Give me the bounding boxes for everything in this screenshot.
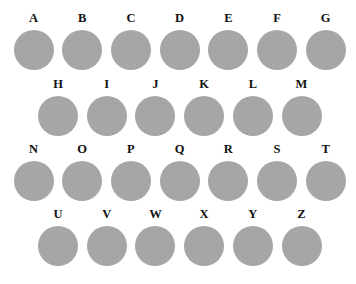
circle-c[interactable] xyxy=(111,30,151,70)
circle-s[interactable] xyxy=(257,161,297,201)
letter-label-d: D xyxy=(160,11,200,25)
letter-label-m: M xyxy=(282,77,322,91)
letter-label-g: G xyxy=(306,11,346,25)
letter-label-v: V xyxy=(87,207,127,221)
letter-label-p: P xyxy=(111,142,151,156)
circle-p[interactable] xyxy=(111,161,151,201)
circle-v[interactable] xyxy=(87,226,127,266)
letter-label-c: C xyxy=(111,11,151,25)
letter-label-t: T xyxy=(306,142,346,156)
circle-r[interactable] xyxy=(208,161,248,201)
letter-label-z: Z xyxy=(282,207,322,221)
circle-b[interactable] xyxy=(62,30,102,70)
letter-label-o: O xyxy=(62,142,102,156)
circle-l[interactable] xyxy=(233,96,273,136)
letter-label-i: I xyxy=(87,77,127,91)
circle-h[interactable] xyxy=(38,96,78,136)
circle-j[interactable] xyxy=(135,96,175,136)
letter-label-e: E xyxy=(208,11,248,25)
circle-q[interactable] xyxy=(160,161,200,201)
circle-k[interactable] xyxy=(184,96,224,136)
letter-label-b: B xyxy=(62,11,102,25)
letter-label-f: F xyxy=(257,11,297,25)
letter-label-x: X xyxy=(184,207,224,221)
letter-label-a: A xyxy=(14,11,54,25)
circle-g[interactable] xyxy=(306,30,346,70)
circle-y[interactable] xyxy=(233,226,273,266)
letter-label-u: U xyxy=(38,207,78,221)
letter-label-l: L xyxy=(233,77,273,91)
circle-w[interactable] xyxy=(135,226,175,266)
circle-m[interactable] xyxy=(282,96,322,136)
circle-z[interactable] xyxy=(282,226,322,266)
letter-label-q: Q xyxy=(160,142,200,156)
letter-label-n: N xyxy=(14,142,54,156)
letter-label-w: W xyxy=(135,207,175,221)
letter-label-s: S xyxy=(257,142,297,156)
letter-label-j: J xyxy=(135,77,175,91)
letter-label-k: K xyxy=(184,77,224,91)
letter-label-h: H xyxy=(38,77,78,91)
circle-o[interactable] xyxy=(62,161,102,201)
letter-label-y: Y xyxy=(233,207,273,221)
circle-d[interactable] xyxy=(160,30,200,70)
circle-f[interactable] xyxy=(257,30,297,70)
letter-label-r: R xyxy=(208,142,248,156)
circle-n[interactable] xyxy=(14,161,54,201)
circle-u[interactable] xyxy=(38,226,78,266)
circle-i[interactable] xyxy=(87,96,127,136)
circle-a[interactable] xyxy=(14,30,54,70)
circle-t[interactable] xyxy=(306,161,346,201)
circle-x[interactable] xyxy=(184,226,224,266)
circle-e[interactable] xyxy=(208,30,248,70)
